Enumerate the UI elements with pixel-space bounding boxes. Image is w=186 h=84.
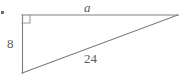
- edge-label-top-leg: a: [84, 1, 91, 14]
- triangle-drawing: [0, 0, 186, 84]
- triangle-edge-hypotenuse: [22, 15, 178, 73]
- right-angle-marker-icon: [22, 15, 30, 23]
- edge-label-vertical-leg: 8: [7, 37, 14, 50]
- right-triangle-figure: a 8 24: [0, 0, 186, 84]
- edge-label-hypotenuse: 24: [84, 52, 97, 65]
